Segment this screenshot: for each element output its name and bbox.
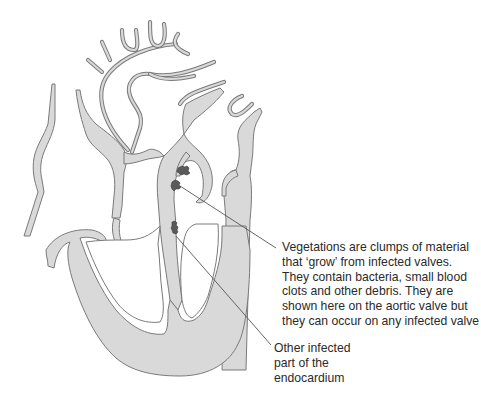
annotation-line: clots and other debris. They are bbox=[282, 284, 481, 299]
annotation-line: endocardium bbox=[274, 371, 394, 386]
annotation-line: part of the bbox=[274, 356, 394, 371]
annotation-line: Vegetations are clumps of material bbox=[282, 240, 481, 255]
annotation-endocardium: Other infected part of the endocardium bbox=[274, 341, 394, 385]
left-vessel bbox=[24, 84, 55, 236]
right-curl-vessel bbox=[230, 96, 252, 115]
annotation-line: they can occur on any infected valve bbox=[282, 314, 481, 329]
annotation-line: Other infected bbox=[274, 341, 394, 356]
vegetation-clump-2 bbox=[171, 180, 181, 191]
heart-diagram bbox=[0, 0, 481, 400]
annotation-vegetations: Vegetations are clumps of material that … bbox=[282, 240, 481, 329]
annotation-line: shown here on the aortic valve but bbox=[282, 299, 481, 314]
annotation-line: They contain bacteria, small blood bbox=[282, 270, 481, 285]
annotation-line: that ‘grow’ from infected valves. bbox=[282, 255, 481, 270]
